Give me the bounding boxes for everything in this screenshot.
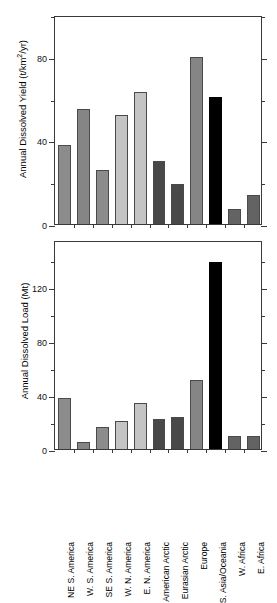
bar	[153, 419, 166, 449]
y-tick-label: 0	[42, 447, 47, 456]
y-tick-minor-right	[261, 17, 265, 18]
x-tick	[131, 224, 132, 228]
x-tick	[168, 224, 169, 228]
y-tick-major	[49, 397, 55, 398]
panel-dissolved-yield: Annual Dissolved Yield (t/km2/yr) 04080	[0, 0, 277, 232]
y-tick-label: 80	[37, 339, 47, 348]
x-axis-category-label: Eurasian Arctic	[181, 542, 190, 599]
x-axis-category-label: W. S. America	[86, 542, 95, 596]
plot-area-bottom: 04080120	[54, 241, 262, 450]
y-tick-minor-right	[261, 316, 265, 317]
y-tick-minor	[51, 17, 55, 18]
y-tick-major-right	[261, 142, 267, 143]
y-tick-label: 0	[42, 222, 47, 231]
plot-area-top: 04080	[54, 16, 262, 225]
x-axis-category-label: SE S. America	[105, 542, 114, 597]
bar	[153, 161, 166, 224]
y-tick-major-right	[261, 289, 267, 290]
x-tick	[112, 224, 113, 228]
bar	[115, 115, 128, 224]
bar	[58, 398, 71, 449]
bar	[247, 436, 260, 449]
bar	[228, 436, 241, 449]
y-tick-label: 120	[32, 285, 47, 294]
y-tick-minor	[51, 262, 55, 263]
bar	[134, 403, 147, 449]
y-tick-major-right	[261, 59, 267, 60]
x-tick	[225, 224, 226, 228]
y-tick-major-right	[261, 226, 267, 227]
x-tick	[187, 224, 188, 228]
y-axis-title-top: Annual Dissolved Yield (t/km2/yr)	[18, 14, 28, 204]
bar	[115, 421, 128, 449]
bar	[96, 427, 109, 449]
x-axis-category-label: E. N. America	[143, 542, 152, 595]
x-axis-category-labels: NE S. AmericaW. S. AmericaSE S. AmericaW…	[54, 450, 262, 545]
bar	[190, 57, 203, 224]
bar	[190, 380, 203, 449]
y-tick-minor-right	[261, 262, 265, 263]
y-tick-minor	[51, 101, 55, 102]
x-axis-category-label: W. Africa	[238, 542, 247, 576]
y-axis-title-top-exponent: 2	[16, 54, 23, 58]
x-axis-category-label: E. Africa	[257, 542, 266, 574]
y-tick-minor	[51, 424, 55, 425]
y-tick-major	[49, 289, 55, 290]
bar	[77, 442, 90, 449]
y-tick-label: 80	[37, 54, 47, 63]
y-tick-minor	[51, 184, 55, 185]
y-tick-label: 40	[37, 393, 47, 402]
y-tick-minor-right	[261, 424, 265, 425]
bar	[58, 145, 71, 224]
y-tick-label: 40	[37, 138, 47, 147]
y-tick-minor-right	[261, 101, 265, 102]
x-tick	[150, 224, 151, 228]
x-axis-category-label: NE S. America	[67, 542, 76, 598]
bar	[209, 262, 222, 449]
y-tick-minor	[51, 316, 55, 317]
y-tick-major	[49, 226, 55, 227]
x-tick	[93, 224, 94, 228]
bar	[209, 97, 222, 224]
bar	[134, 92, 147, 224]
bar	[171, 417, 184, 449]
y-tick-major	[49, 142, 55, 143]
y-tick-minor	[51, 370, 55, 371]
y-tick-major-right	[261, 343, 267, 344]
x-axis-category-label: S. Asia/Oceania	[219, 542, 228, 603]
y-axis-title-bottom: Annual Dissolved Load (Mt)	[20, 246, 30, 436]
bar	[96, 170, 109, 224]
y-tick-major	[49, 59, 55, 60]
x-tick	[206, 224, 207, 228]
y-tick-major-right	[261, 397, 267, 398]
x-axis-category-label: Europe	[200, 542, 209, 570]
y-tick-minor-right	[261, 370, 265, 371]
bar	[247, 195, 260, 224]
x-tick	[74, 224, 75, 228]
bar	[228, 209, 241, 224]
y-axis-title-top-text: Annual Dissolved Yield (t/km	[17, 58, 28, 178]
bar-series-top	[55, 17, 261, 224]
x-tick	[244, 224, 245, 228]
x-axis-category-label: W. N. America	[124, 542, 133, 596]
bar	[171, 184, 184, 224]
y-axis-title-top-tail: /yr)	[17, 40, 28, 54]
y-tick-minor-right	[261, 184, 265, 185]
bar-series-bottom	[55, 242, 261, 449]
bar	[77, 109, 90, 224]
x-axis-category-label: American Arctic	[162, 542, 171, 602]
y-tick-major	[49, 343, 55, 344]
